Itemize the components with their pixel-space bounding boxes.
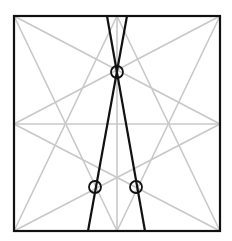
- construction-lines: [14, 16, 220, 231]
- star-construction-diagram: [0, 0, 232, 241]
